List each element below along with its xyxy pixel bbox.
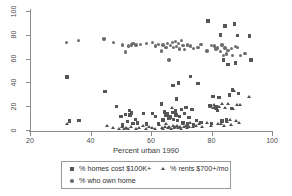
- data-point: [130, 111, 133, 114]
- data-point: [199, 43, 202, 46]
- data-point: [77, 119, 80, 122]
- data-point: [187, 125, 191, 128]
- data-point: [228, 93, 231, 96]
- data-point: [177, 81, 180, 84]
- data-point: [232, 89, 236, 92]
- data-point: [226, 102, 230, 105]
- data-point: [230, 47, 233, 50]
- x-tick-60: [151, 132, 152, 136]
- data-point: [134, 43, 137, 46]
- data-point: [209, 124, 213, 127]
- circle-marker-icon: [68, 177, 76, 185]
- data-point: [211, 95, 214, 98]
- data-point: [172, 118, 175, 121]
- data-point: [176, 119, 179, 122]
- data-point: [225, 52, 228, 55]
- data-point: [220, 102, 224, 105]
- data-point: [167, 58, 170, 61]
- data-point: [136, 121, 139, 124]
- data-point: [247, 95, 251, 98]
- x-tick-label-20: 20: [19, 137, 41, 144]
- data-point: [196, 46, 199, 49]
- data-point: [178, 115, 181, 118]
- data-point: [121, 43, 124, 46]
- data-point: [206, 19, 209, 22]
- data-point: [243, 52, 246, 55]
- y-tick-40: [26, 82, 30, 83]
- data-point: [174, 113, 177, 116]
- y-tick-0: [26, 130, 30, 131]
- data-point: [234, 61, 237, 64]
- y-tick-label-0: 0: [10, 120, 17, 140]
- data-point: [183, 112, 186, 115]
- y-tick-label-100: 100: [10, 1, 17, 21]
- data-point: [249, 58, 252, 61]
- data-point: [126, 120, 129, 123]
- data-point: [237, 92, 240, 95]
- data-point: [181, 44, 184, 47]
- data-point: [175, 97, 178, 100]
- data-point: [124, 50, 127, 53]
- y-tick-100: [26, 11, 30, 12]
- data-point: [137, 126, 141, 129]
- data-point: [189, 75, 192, 78]
- data-point: [77, 39, 80, 42]
- data-point: [196, 82, 199, 85]
- x-tick-40: [91, 132, 92, 136]
- data-point: [216, 46, 219, 49]
- legend-entry-1: % rents $700+/mo: [159, 165, 229, 173]
- x-tick-label-40: 40: [80, 137, 102, 144]
- data-point: [212, 103, 216, 106]
- data-point: [119, 115, 122, 118]
- data-point: [174, 109, 177, 112]
- triangle-marker-icon: [159, 165, 167, 173]
- data-point: [65, 122, 69, 125]
- x-tick-label-80: 80: [201, 137, 223, 144]
- data-point: [200, 125, 204, 128]
- data-point: [236, 46, 239, 49]
- data-point: [248, 34, 251, 37]
- y-tick-80: [26, 35, 30, 36]
- data-point: [102, 37, 105, 40]
- data-point: [164, 46, 167, 49]
- data-point: [142, 112, 145, 115]
- legend-entry-2: % who own home: [68, 177, 136, 185]
- x-tick-label-60: 60: [140, 137, 162, 144]
- data-point: [105, 124, 109, 127]
- data-point: [233, 22, 236, 25]
- x-tick-80: [212, 132, 213, 136]
- data-point: [190, 108, 193, 111]
- data-point: [154, 115, 157, 118]
- data-point: [222, 124, 226, 127]
- x-tick-label-100: 100: [261, 137, 283, 144]
- data-point: [111, 126, 115, 129]
- data-point: [170, 106, 174, 109]
- square-marker-icon: [68, 165, 76, 173]
- data-point: [205, 121, 209, 124]
- legend-label-2: % who own home: [79, 177, 136, 185]
- data-point: [103, 90, 106, 93]
- y-tick-60: [26, 59, 30, 60]
- data-point: [236, 34, 239, 37]
- data-point: [112, 41, 115, 44]
- data-point: [205, 49, 208, 52]
- data-point: [226, 63, 229, 66]
- data-point: [228, 118, 232, 121]
- data-point: [223, 106, 227, 109]
- data-point: [238, 103, 242, 106]
- x-tick-100: [272, 132, 273, 136]
- data-point: [180, 108, 183, 111]
- legend-label-0: % homes cost $100K+: [79, 165, 151, 173]
- data-point: [153, 127, 157, 130]
- x-axis-title: Percent urban 1990: [0, 147, 292, 155]
- y-tick-label-60: 60: [10, 49, 17, 69]
- data-point: [222, 58, 225, 61]
- x-tick-20: [30, 132, 31, 136]
- data-point: [237, 121, 241, 124]
- legend-label-1: % rents $700+/mo: [170, 165, 229, 173]
- y-tick-20: [26, 106, 30, 107]
- data-point: [160, 49, 163, 52]
- y-tick-label-20: 20: [10, 96, 17, 116]
- data-point: [229, 123, 233, 126]
- data-point: [184, 106, 187, 109]
